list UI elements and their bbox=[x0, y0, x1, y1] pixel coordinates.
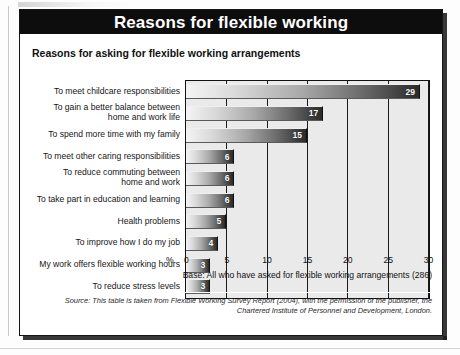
bar-value-label: 4 bbox=[209, 239, 218, 248]
bar-value-label: 3 bbox=[200, 282, 209, 291]
bar: 6 bbox=[186, 171, 234, 186]
x-tick-label: 30 bbox=[424, 255, 434, 265]
bar-row: 29 bbox=[186, 84, 428, 99]
figure-body: Reasons for asking for flexible working … bbox=[20, 34, 442, 335]
bar: 6 bbox=[186, 149, 234, 164]
value-axis: 051015202530 bbox=[185, 255, 430, 267]
scan-rule-left bbox=[8, 6, 9, 336]
figure-title: Reasons for flexible working bbox=[114, 14, 348, 31]
page-root: Reasons for flexible working Reasons for… bbox=[0, 0, 460, 355]
figure-card: Reasons for flexible working Reasons for… bbox=[19, 9, 443, 336]
scan-rule-bottom bbox=[0, 348, 460, 349]
bar-row: 15 bbox=[186, 128, 428, 143]
figure-title-bar: Reasons for flexible working bbox=[20, 10, 442, 34]
bar-row: 6 bbox=[186, 149, 428, 164]
x-tick-label: 20 bbox=[343, 255, 353, 265]
bar-row: 17 bbox=[186, 106, 428, 121]
bar: 6 bbox=[186, 193, 234, 208]
category-label: To gain a better balance between home an… bbox=[18, 102, 180, 122]
category-label: To meet childcare responsibilities bbox=[18, 86, 180, 96]
figure-subtitle: Reasons for asking for flexible working … bbox=[32, 47, 300, 59]
bar-value-label: 17 bbox=[309, 109, 323, 118]
bar: 15 bbox=[186, 128, 307, 143]
figure-drop-shadow-right bbox=[443, 13, 447, 340]
figure-drop-shadow-bottom bbox=[23, 336, 447, 340]
bar-value-label: 6 bbox=[225, 174, 234, 183]
bar-value-label: 6 bbox=[225, 153, 234, 162]
bar-row: 6 bbox=[186, 171, 428, 186]
bar-value-label: 29 bbox=[406, 88, 420, 97]
bar-row: 6 bbox=[186, 193, 428, 208]
bar-value-label: 15 bbox=[293, 131, 307, 140]
category-axis-labels: To meet childcare responsibilitiesTo gai… bbox=[20, 80, 183, 299]
category-label: To reduce commuting between home and wor… bbox=[18, 167, 180, 187]
category-label: To meet other caring responsibilities bbox=[18, 151, 180, 161]
bar-value-label: 5 bbox=[217, 217, 226, 226]
bar-row: 4 bbox=[186, 236, 428, 251]
x-tick-label: 5 bbox=[224, 255, 229, 265]
bar: 29 bbox=[186, 84, 420, 99]
bar: 5 bbox=[186, 214, 226, 229]
scan-artifact-top bbox=[18, 2, 138, 7]
source-note: Source: This table is taken from Flexibl… bbox=[30, 296, 432, 316]
bar: 4 bbox=[186, 236, 218, 251]
category-label: To reduce stress levels bbox=[18, 281, 180, 291]
x-tick-label: 10 bbox=[262, 255, 272, 265]
category-label: My work offers flexible working hours bbox=[18, 259, 180, 269]
base-note: Base: All who have asked for flexible wo… bbox=[20, 270, 432, 280]
category-label: To take part in education and learning bbox=[18, 194, 180, 204]
x-tick-label: 25 bbox=[383, 255, 393, 265]
bar-chart: To meet childcare responsibilitiesTo gai… bbox=[20, 80, 442, 302]
percent-axis-symbol: % bbox=[166, 255, 174, 265]
bar-row: 5 bbox=[186, 214, 428, 229]
bar-value-label: 6 bbox=[225, 196, 234, 205]
category-label: To improve how I do my job bbox=[18, 237, 180, 247]
category-label: To spend more time with my family bbox=[18, 129, 180, 139]
source-separator bbox=[30, 292, 432, 293]
x-tick-label: 0 bbox=[184, 255, 189, 265]
bar: 17 bbox=[186, 106, 323, 121]
x-tick-label: 15 bbox=[303, 255, 313, 265]
category-label: Health problems bbox=[18, 216, 180, 226]
